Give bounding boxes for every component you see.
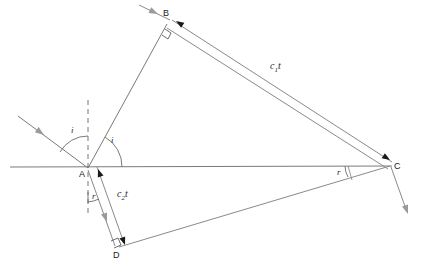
point-label-d: D [113, 251, 120, 260]
beam-ad-arrowhead-at-a-icon [95, 168, 103, 178]
refraction-wavefront-diagram: A B C D i i r r c1t c2t [0, 0, 425, 279]
point-label-a: A [79, 170, 85, 179]
beam-ad-arrowhead-icon [101, 212, 110, 223]
wavefront-incoming-arrowhead-icon [149, 7, 160, 17]
angle-label-refraction-at-c: r [337, 168, 341, 177]
beam-a-to-d-left-line [88, 170, 115, 246]
beam-b-to-c-lower-line [167, 28, 388, 169]
distance-label-c2t: c2t [117, 189, 128, 202]
c1t-tail: t [278, 60, 281, 71]
ray-a-to-b-line [88, 24, 167, 168]
point-label-c: C [394, 162, 401, 171]
distance-label-c1t: c1t [270, 61, 281, 74]
angle-arc-refraction-at-c [345, 166, 348, 177]
interface-line [10, 166, 392, 167]
exit-ray-arrowhead-icon [402, 204, 411, 215]
angle-label-reflection: i [111, 136, 114, 145]
beam-b-to-c-upper-line [172, 20, 392, 162]
angle-label-refraction-at-a: r [92, 192, 96, 201]
exit-ray-from-c-line [391, 167, 407, 212]
beam-a-to-d-right-line [97, 167, 124, 243]
wavefront-d-to-c-line [119, 166, 390, 247]
point-label-b: B [163, 9, 169, 18]
diagram-canvas [0, 0, 425, 279]
angle-label-incidence: i [71, 126, 74, 135]
incident-ray-line [18, 116, 88, 168]
c2t-tail: t [125, 188, 128, 199]
angle-arc-incidence [60, 136, 88, 152]
